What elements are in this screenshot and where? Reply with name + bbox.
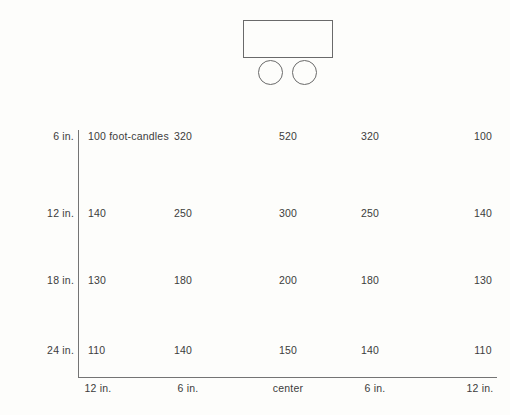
x-axis-tick-label: center (258, 382, 318, 395)
x-axis-tick-labels: 12 in. 6 in. center 6 in. 12 in. (0, 0, 510, 415)
x-axis-tick-label: 12 in. (68, 382, 128, 395)
x-axis-tick-label: 12 in. (455, 382, 505, 395)
x-axis-tick-label: 6 in. (163, 382, 213, 395)
x-axis-tick-label: 6 in. (350, 382, 400, 395)
figure-canvas: Vertical distance from the light source … (0, 0, 510, 415)
